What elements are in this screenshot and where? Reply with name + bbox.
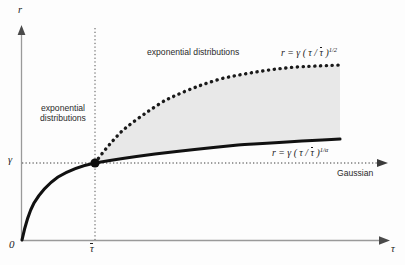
equation-upper-curve: r = γ ( τ / τ )1/2 <box>281 46 337 59</box>
annotation-left-exponential-distributions: exponential distributions <box>28 104 98 124</box>
diagram-canvas <box>0 0 405 265</box>
equation-lower-prefix: r = γ ( τ / <box>272 147 310 158</box>
annotation-upper-exponential-distributions: exponential distributions <box>147 48 239 58</box>
x-tick-label-tau-bar: τ <box>90 243 94 255</box>
y-axis-arrowhead <box>18 25 26 35</box>
equation-upper-exponent: 1/2 <box>329 46 337 53</box>
equation-upper-prefix: r = γ ( τ / <box>281 47 319 58</box>
equation-lower-exponent: 1/α <box>320 146 329 153</box>
equation-lower-curve: r = γ ( τ / τ )1/α <box>272 146 328 159</box>
equation-lower-tau-bar: τ <box>310 147 314 158</box>
annotation-gaussian: Gaussian <box>337 169 373 179</box>
annotation-left-line-2: distributions <box>28 114 98 124</box>
intersection-point-marker <box>90 158 99 167</box>
figure-container: r τ 0 γ τ exponential distributions expo… <box>0 0 405 265</box>
y-axis-label: r <box>18 4 22 16</box>
x-axis-arrowhead <box>379 236 390 244</box>
x-axis-label: τ <box>391 243 395 255</box>
gaussian-arrowhead <box>377 159 388 167</box>
equation-upper-tau-bar: τ <box>319 47 323 58</box>
tau-bar-overline-glyph: τ <box>90 243 94 255</box>
origin-label: 0 <box>9 238 15 251</box>
y-tick-label-gamma: γ <box>8 154 12 166</box>
